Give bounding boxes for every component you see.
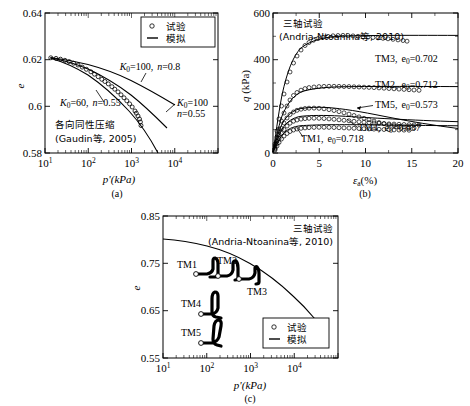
panel-c-svg: 0.55 0.65 0.75 0.85 bbox=[115, 200, 365, 406]
yaxis-label-c: e bbox=[130, 285, 142, 290]
panel-c: 0.55 0.65 0.75 0.85 bbox=[115, 200, 365, 406]
panel-id-a: (a) bbox=[111, 188, 122, 200]
path-tm1-c bbox=[197, 258, 218, 277]
annot-tm4-b: TM4,e0=0.637 bbox=[358, 122, 421, 135]
ytick-c-3: 0.85 bbox=[141, 210, 161, 222]
panel-id-b: (b) bbox=[359, 188, 371, 200]
marker-tm1-start bbox=[194, 272, 199, 277]
ytick-c-1: 0.65 bbox=[141, 304, 161, 316]
annot-k100-n08: K0=100,n=0.8 bbox=[119, 61, 181, 74]
ytick-b-3: 600 bbox=[254, 7, 271, 19]
xtick-a-3: 104 bbox=[167, 156, 182, 169]
annot-tm5-c: TM5 bbox=[181, 327, 201, 338]
xtick-a-2: 103 bbox=[124, 156, 139, 169]
annot-tm1-b: TM1,e0=0.718 bbox=[301, 133, 364, 146]
annot-tm2-c: TM2 bbox=[217, 255, 237, 266]
panel-b-svg: 0 200 400 600 0 5 10 15 20 εa(%) q (kPa)… bbox=[235, 0, 470, 200]
xtick-b-4: 20 bbox=[453, 157, 465, 169]
leader-k100-n08 bbox=[141, 73, 146, 82]
panel-id-c: (c) bbox=[244, 393, 255, 405]
annot-test-b-line1: 三轴试验 bbox=[283, 18, 323, 29]
xtick-c-2: 103 bbox=[243, 361, 258, 374]
annot-test-a-line2: (Gaudin等, 2005) bbox=[55, 133, 137, 144]
arrow-tm5-b bbox=[357, 106, 361, 110]
annot-tm4-c: TM4 bbox=[181, 298, 201, 309]
legend-c: 试验 模拟 bbox=[263, 318, 329, 348]
panel-b: 0 200 400 600 0 5 10 15 20 εa(%) q (kPa)… bbox=[235, 0, 470, 200]
panel-a: 0.58 0.6 0.62 0.64 bbox=[0, 0, 235, 200]
yaxis-label-b: q (kPa) bbox=[239, 70, 252, 102]
xaxis-label-a: p'(kPa) bbox=[102, 173, 136, 186]
annot-k60-n055: K0=60,n=0.55 bbox=[59, 97, 121, 110]
annot-tm1-c: TM1 bbox=[177, 259, 197, 270]
xtick-b-2: 10 bbox=[360, 157, 372, 169]
annot-k100-n055-l2: n=0.55 bbox=[177, 108, 205, 119]
legend-label-experiment-a: 试验 bbox=[166, 21, 186, 32]
yaxis-label-a: e bbox=[14, 83, 26, 88]
xtick-b-1: 5 bbox=[317, 157, 323, 169]
ytick-a-3: 0.64 bbox=[23, 7, 43, 19]
path-tm4-c bbox=[202, 292, 221, 318]
annotations-b: 三轴试验 (Andria-Ntoanina等, 2010) TM3,e0=0.7… bbox=[279, 18, 438, 146]
annot-tm3-b: TM3,e0=0.702 bbox=[375, 53, 438, 66]
ytick-b-1: 200 bbox=[254, 100, 271, 112]
ytick-a-1: 0.6 bbox=[28, 100, 42, 112]
marker-tm2-start bbox=[216, 274, 221, 279]
annot-test-c-line2: (Andria-Ntoanina等, 2010) bbox=[208, 236, 333, 247]
legend-label-experiment-c: 试验 bbox=[287, 322, 307, 333]
annot-test-c-line1: 三轴试验 bbox=[293, 223, 333, 234]
xaxis-label-c: p'(kPa) bbox=[233, 379, 267, 392]
annot-test-b-line2: (Andria-Ntoanina等, 2010) bbox=[279, 31, 404, 42]
annot-test-a-line1: 各向同性压缩 bbox=[55, 119, 115, 130]
path-tm3-c bbox=[239, 267, 259, 284]
xtick-c-1: 102 bbox=[199, 361, 214, 374]
panel-a-svg: 0.58 0.6 0.62 0.64 bbox=[0, 0, 235, 200]
marker-tm3-start bbox=[237, 277, 242, 282]
xtick-b-3: 15 bbox=[406, 157, 418, 169]
leader-k100-n055 bbox=[166, 104, 175, 112]
xtick-c-0: 101 bbox=[156, 361, 171, 374]
ytick-c-2: 0.75 bbox=[141, 257, 161, 269]
ytick-a-2: 0.62 bbox=[23, 53, 42, 65]
annot-tm5-b: TM5,e0=0.573 bbox=[375, 99, 438, 112]
path-tm5-c bbox=[202, 320, 221, 346]
legend-a: 试验 模拟 bbox=[141, 17, 215, 47]
legend-label-model-c: 模拟 bbox=[287, 334, 307, 345]
ytick-b-2: 400 bbox=[254, 53, 271, 65]
xtick-a-1: 102 bbox=[81, 156, 96, 169]
marker-tm5-start bbox=[199, 341, 204, 346]
xtick-b-0: 0 bbox=[270, 157, 276, 169]
stress-paths-c bbox=[197, 258, 259, 346]
xtick-a-0: 101 bbox=[38, 156, 53, 169]
xaxis-label-b: εa(%) bbox=[353, 174, 378, 188]
xtick-c-3: 104 bbox=[287, 361, 302, 374]
legend-label-model-a: 模拟 bbox=[166, 33, 186, 44]
annot-tm3-c: TM3 bbox=[247, 286, 267, 297]
marker-tm4-start bbox=[199, 312, 204, 317]
